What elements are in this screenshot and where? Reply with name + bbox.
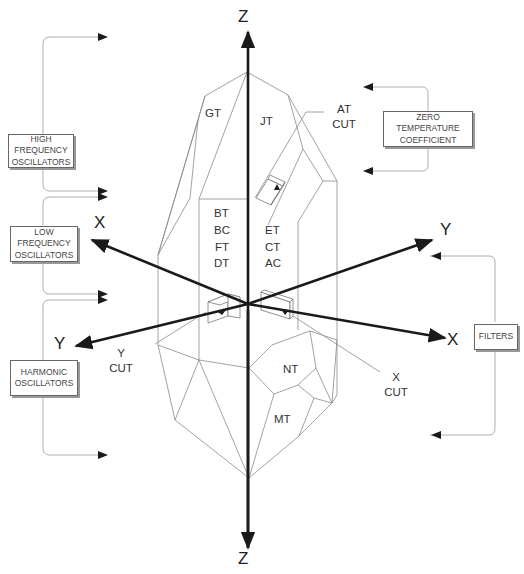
face-label-mt: MT bbox=[274, 412, 291, 426]
axes bbox=[76, 32, 445, 548]
face-label-ac: AC bbox=[265, 256, 281, 270]
y-cut-label: Y CUT bbox=[103, 346, 139, 376]
quartz-crystal-diagram: Z Z X X Y Y GT JT BT BC FT DT ET CT AC N… bbox=[0, 0, 524, 574]
y-axis-label-left: Y bbox=[54, 333, 65, 354]
filters-box: FILTERS bbox=[474, 324, 518, 350]
face-label-gt: GT bbox=[205, 106, 221, 120]
face-label-nt: NT bbox=[283, 362, 298, 376]
x-axis-label-right: X bbox=[447, 329, 458, 350]
harmonic-oscillators-box: HARMONIC OSCILLATORS bbox=[10, 360, 78, 396]
face-label-jt: JT bbox=[260, 114, 273, 128]
face-label-bt: BT bbox=[214, 206, 229, 220]
face-label-bc: BC bbox=[214, 223, 230, 237]
at-cut-label: AT CUT bbox=[326, 102, 362, 132]
y-axis-label-right: Y bbox=[440, 219, 451, 240]
x-cut-label: X CUT bbox=[378, 370, 414, 400]
high-frequency-oscillators-box: HIGH FREQUENCY OSCILLATORS bbox=[8, 134, 74, 168]
z-axis-label-bottom: Z bbox=[238, 548, 248, 569]
low-frequency-oscillators-box: LOW FREQUENCY OSCILLATORS bbox=[10, 226, 78, 262]
x-axis-label-left: X bbox=[94, 212, 105, 233]
face-label-dt: DT bbox=[214, 256, 229, 270]
face-label-et: ET bbox=[265, 223, 280, 237]
face-label-ft: FT bbox=[215, 240, 229, 254]
at-cut-plate bbox=[256, 175, 285, 205]
zero-temperature-coefficient-box: ZERO TEMPERATURE COEFFICIENT bbox=[383, 111, 473, 147]
face-label-ct: CT bbox=[265, 240, 280, 254]
diagram-artwork bbox=[0, 0, 524, 574]
z-axis-label-top: Z bbox=[238, 6, 248, 27]
